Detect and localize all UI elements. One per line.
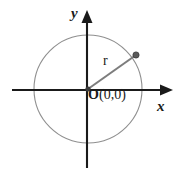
circle-point-dot bbox=[133, 52, 139, 58]
radius-label: r bbox=[103, 54, 108, 68]
x-axis-label: x bbox=[157, 99, 165, 114]
geometry-figure: y x r O (0,0) bbox=[0, 0, 179, 173]
y-axis-label: y bbox=[71, 6, 78, 21]
origin-coordinates-label: (0,0) bbox=[99, 88, 126, 102]
origin-label: O bbox=[88, 88, 99, 102]
